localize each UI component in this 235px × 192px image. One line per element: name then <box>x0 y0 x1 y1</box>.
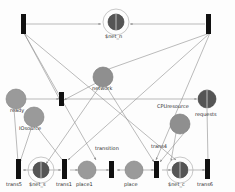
transition-node[interactable] <box>109 161 114 178</box>
place-node[interactable] <box>6 89 26 109</box>
arc <box>24 33 176 160</box>
label-cpuresource: CPUresource <box>157 103 189 109</box>
arc <box>20 126 32 162</box>
place-node[interactable] <box>78 161 96 179</box>
place-node[interactable] <box>24 107 44 127</box>
substitution-node[interactable] <box>198 90 216 108</box>
label-transition: transition <box>95 145 119 151</box>
transition-node[interactable] <box>205 159 210 179</box>
transition-node[interactable] <box>16 159 21 179</box>
transition-node[interactable] <box>62 159 67 179</box>
transition-node[interactable] <box>154 161 159 178</box>
label-iosource: IOsource <box>19 125 41 131</box>
transition-node[interactable] <box>21 14 26 34</box>
petri-net-graph <box>0 0 235 192</box>
arc <box>171 133 176 161</box>
place-node[interactable] <box>170 114 190 134</box>
transition-node[interactable] <box>59 92 64 106</box>
label-place1: place1 <box>76 181 93 187</box>
label-trans5: trans5 <box>6 181 22 187</box>
place-node[interactable] <box>125 161 143 179</box>
label-net-s: $net_s <box>29 181 46 187</box>
petri-net-canvas: $net_n network ready IOsource CPUresourc… <box>0 0 235 192</box>
transition-node[interactable] <box>206 14 211 34</box>
label-requests: requests <box>195 111 217 117</box>
label-net-n: $net_n <box>105 33 122 39</box>
label-ready: ready <box>10 107 24 113</box>
arc <box>68 33 210 160</box>
label-trans1: trans1 <box>56 181 72 187</box>
label-trans4: trans4 <box>151 143 167 149</box>
label-trans6: trans6 <box>197 181 213 187</box>
place-node[interactable] <box>93 67 113 87</box>
label-network: network <box>92 85 112 91</box>
arc <box>14 109 18 162</box>
label-net-c: $net_c <box>168 181 185 187</box>
substitution-node[interactable] <box>103 9 129 35</box>
label-place: place <box>124 181 137 187</box>
